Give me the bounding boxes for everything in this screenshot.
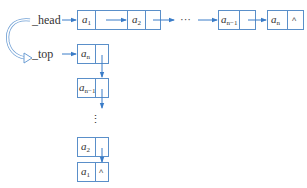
top-pointer-label: _top bbox=[31, 47, 53, 61]
top-node-n-minus-1: an−1 bbox=[78, 79, 109, 98]
top-node-2: a2 bbox=[78, 138, 109, 157]
top-node-1: a1 ^ bbox=[78, 163, 109, 182]
curved-arrow-icon bbox=[8, 20, 32, 63]
top-node-n: an bbox=[78, 45, 109, 64]
ellipsis: ··· bbox=[180, 13, 191, 25]
vertical-ellipsis: ⋮ bbox=[90, 113, 101, 125]
head-pointer-label: _head bbox=[31, 13, 61, 27]
linked-list-diagram: _head a1 a2 ··· an−1 an ^ _top an bbox=[0, 0, 307, 188]
head-node-n: an ^ bbox=[268, 11, 304, 30]
